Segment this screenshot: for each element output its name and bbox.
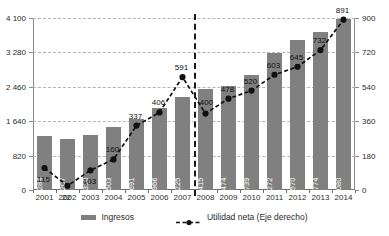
line-point-marker bbox=[271, 72, 277, 78]
x-axis-label: 2005 bbox=[128, 193, 146, 202]
right-axis-tick-label: 360 bbox=[362, 117, 375, 126]
x-axis-label: 2009 bbox=[220, 193, 238, 202]
x-axis-tick bbox=[355, 190, 356, 193]
right-axis-tick-label: 0 bbox=[362, 186, 366, 195]
line-point-marker bbox=[340, 17, 346, 23]
x-axis-label: 2013 bbox=[312, 193, 330, 202]
x-axis-label: 2012 bbox=[289, 193, 307, 202]
left-axis-tick-label: 820 bbox=[13, 151, 26, 160]
line-point-label: 115 bbox=[37, 175, 50, 184]
right-axis-tick-label: 540 bbox=[362, 82, 375, 91]
line-point-marker bbox=[248, 88, 254, 94]
x-axis-label: 2014 bbox=[335, 193, 353, 202]
legend-label-utilidad-neta: Utilidad neta (Eje derecho) bbox=[207, 212, 308, 222]
line-point-label: 400 bbox=[200, 98, 213, 107]
right-axis-tick bbox=[355, 87, 359, 88]
x-axis-label: 2002 bbox=[59, 193, 77, 202]
x-axis-label: 2008 bbox=[197, 193, 215, 202]
line-point-label: 160 bbox=[106, 145, 119, 154]
x-axis-tick bbox=[56, 190, 57, 193]
x-axis-tick bbox=[33, 190, 34, 193]
line-point-marker bbox=[202, 110, 208, 116]
line-point-label: 520 bbox=[244, 77, 257, 86]
right-axis-tick bbox=[355, 121, 359, 122]
chart-container: 08201 6402 4603 2804 100 018036054072090… bbox=[0, 0, 389, 236]
line-point-label: 337 bbox=[129, 112, 142, 121]
x-axis-tick bbox=[79, 190, 80, 193]
left-axis-tick-label: 3 280 bbox=[6, 48, 26, 57]
x-axis-tick bbox=[286, 190, 287, 193]
legend-item-utilidad-neta: Utilidad neta (Eje derecho) bbox=[176, 212, 308, 222]
line-point-label: 891 bbox=[336, 6, 349, 15]
x-axis-tick bbox=[171, 190, 172, 193]
bar-swatch-icon bbox=[81, 215, 96, 220]
line-point-marker bbox=[87, 167, 93, 173]
line-point-marker bbox=[133, 122, 139, 128]
right-axis-tick-label: 180 bbox=[362, 151, 375, 160]
right-axis-tick-label: 720 bbox=[362, 48, 375, 57]
right-axis-tick-label: 900 bbox=[362, 14, 375, 23]
x-axis-tick bbox=[332, 190, 333, 193]
line-point-label: 591 bbox=[175, 63, 188, 72]
x-axis-label: 2006 bbox=[151, 193, 169, 202]
x-axis-tick bbox=[148, 190, 149, 193]
left-axis-tick-label: 1 640 bbox=[6, 117, 26, 126]
x-axis-label: 2007 bbox=[174, 193, 192, 202]
line-point-marker bbox=[317, 47, 323, 53]
dashed-line-marker-icon bbox=[176, 213, 202, 222]
line-point-marker bbox=[64, 183, 70, 189]
x-axis-tick bbox=[125, 190, 126, 193]
x-axis-tick bbox=[240, 190, 241, 193]
line-point-label: 603 bbox=[267, 61, 280, 70]
x-axis-tick bbox=[309, 190, 310, 193]
line-point-label: 478 bbox=[221, 85, 234, 94]
x-axis-label: 2010 bbox=[243, 193, 261, 202]
line-point-label: 406 bbox=[152, 98, 165, 107]
line-point-marker bbox=[179, 74, 185, 80]
x-axis-tick bbox=[263, 190, 264, 193]
x-axis-label: 2011 bbox=[266, 193, 283, 202]
x-axis-label: 2001 bbox=[36, 193, 54, 202]
line-point-marker bbox=[225, 96, 231, 102]
right-axis-tick bbox=[355, 156, 359, 157]
period-divider bbox=[194, 14, 196, 196]
chart-legend: Ingresos Utilidad neta (Eje derecho) bbox=[0, 206, 389, 228]
line-point-marker bbox=[110, 156, 116, 162]
legend-label-ingresos: Ingresos bbox=[101, 212, 134, 222]
line-point-marker bbox=[294, 64, 300, 70]
line-point-label: 732 bbox=[313, 36, 326, 45]
line-point-marker bbox=[41, 165, 47, 171]
line-point-marker bbox=[156, 109, 162, 115]
left-axis-tick-label: 2 460 bbox=[6, 82, 26, 91]
line-point-label: 645 bbox=[290, 53, 303, 62]
legend-item-ingresos: Ingresos bbox=[81, 212, 134, 222]
x-axis-tick bbox=[217, 190, 218, 193]
right-axis-tick bbox=[355, 18, 359, 19]
left-axis-tick-label: 4 100 bbox=[6, 14, 26, 23]
right-axis-tick bbox=[355, 52, 359, 53]
x-axis-label: 2004 bbox=[105, 193, 123, 202]
x-axis-label: 2003 bbox=[82, 193, 100, 202]
left-axis-tick-label: 0 bbox=[22, 186, 26, 195]
plot-area: 08201 6402 4603 2804 100 018036054072090… bbox=[33, 18, 355, 190]
line-point-label: 103 bbox=[83, 177, 96, 186]
x-axis-tick bbox=[102, 190, 103, 193]
